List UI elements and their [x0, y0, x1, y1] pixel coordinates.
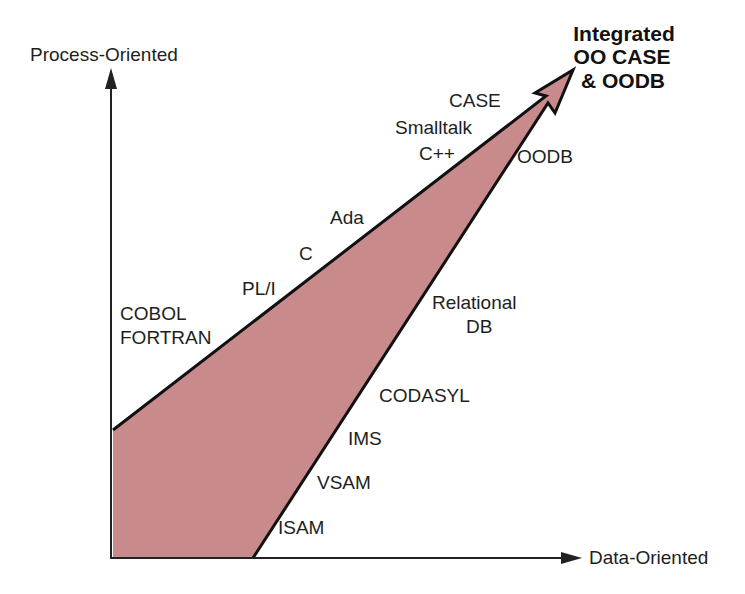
x-axis-arrowhead-icon: [561, 552, 582, 564]
label-db: DB: [466, 316, 492, 337]
label-pl1: PL/I: [242, 278, 276, 299]
y-axis-arrowhead-icon: [105, 68, 117, 89]
label-case: CASE: [449, 90, 501, 111]
label-smalltalk: Smalltalk: [395, 117, 473, 138]
label-relational: Relational: [432, 292, 517, 313]
y-axis-label: Process-Oriented: [30, 44, 178, 65]
label-fortran: FORTRAN: [120, 327, 211, 348]
evolution-diagram: Process-Oriented Data-Oriented Integrate…: [0, 0, 745, 594]
label-ada: Ada: [330, 207, 364, 228]
label-vsam: VSAM: [317, 472, 371, 493]
label-codasyl: CODASYL: [379, 385, 470, 406]
label-oodb: OODB: [517, 146, 573, 167]
label-isam: ISAM: [278, 517, 324, 538]
x-axis-label: Data-Oriented: [589, 547, 708, 568]
goal-line-2: OO CASE: [574, 45, 671, 68]
label-c: C: [299, 243, 313, 264]
goal-line-3: & OODB: [581, 69, 665, 92]
goal-line-1: Integrated: [573, 22, 675, 45]
label-cobol: COBOL: [120, 303, 187, 324]
label-ims: IMS: [348, 428, 382, 449]
label-cpp: C++: [419, 143, 455, 164]
